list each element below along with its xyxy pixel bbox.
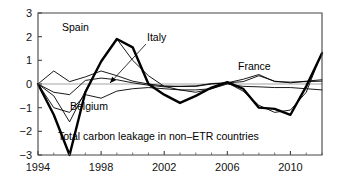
x-tick-label: 2006 (215, 161, 239, 173)
annotation-label-belgium: Belgium (70, 100, 108, 112)
y-tick-label: −2 (19, 125, 32, 137)
annotation-label-total-carbon-leakage-in-non-etr-countrie: Total carbon leakage in non–ETR countrie… (58, 130, 259, 142)
y-tick-label: 3 (26, 7, 32, 19)
annotation-label-spain: Spain (62, 21, 89, 33)
annotation-label-france: France (238, 60, 271, 72)
x-tick-label: 2010 (278, 161, 302, 173)
x-tick-label: 1994 (26, 161, 50, 173)
y-tick-label: 0 (26, 78, 32, 90)
annotation-label-italy: Italy (147, 31, 167, 43)
x-tick-label: 1998 (89, 161, 113, 173)
line-chart-svg: 3210−1−2−319941998200220062010 SpainItal… (0, 0, 337, 177)
y-tick-label: −3 (19, 149, 32, 161)
chart-figure: 3210−1−2−319941998200220062010 SpainItal… (0, 0, 337, 177)
chart-background (0, 0, 337, 177)
y-tick-label: 1 (26, 54, 32, 66)
y-tick-label: 2 (26, 31, 32, 43)
x-tick-label: 2002 (152, 161, 176, 173)
y-tick-label: −1 (19, 102, 32, 114)
